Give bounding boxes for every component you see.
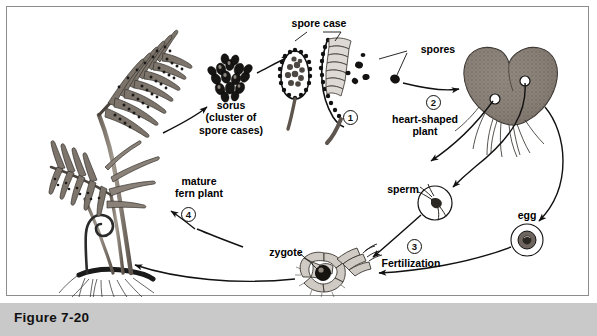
label-mature-fern-plant: mature fern plant (164, 175, 234, 200)
stage-number-3: 3 (407, 239, 422, 254)
egg-art (511, 224, 543, 256)
arrow-tail-to-mature-fern (197, 229, 243, 247)
figure-caption: Figure 7-20 (14, 310, 89, 325)
label-spore-case: spore case (279, 17, 359, 29)
diagram-canvas: sorus (cluster of spore cases) spore cas… (7, 7, 588, 295)
label-zygote: zygote (261, 246, 311, 258)
stage-number-1: 1 (343, 110, 358, 125)
figure-page: sorus (cluster of spore cases) spore cas… (0, 0, 597, 336)
label-heart-shaped-plant: heart-shaped plant (385, 113, 465, 138)
mature-fern-art (49, 30, 192, 297)
arrow-female-to-fern-lower (135, 265, 295, 281)
heart-shaped-plant-art (455, 47, 557, 157)
label-fertilization: Fertilization (369, 257, 453, 269)
frond-left (49, 141, 111, 217)
stage-number-2: 2 (426, 95, 441, 110)
sorus-art (206, 53, 254, 103)
stage-number-4: 4 (181, 207, 196, 222)
arrow-gametophyte-to-egg (539, 107, 563, 221)
figure-caption-bar (0, 303, 597, 336)
diagram-frame: sorus (cluster of spore cases) spore cas… (6, 6, 589, 296)
arrow-spores-to-gametophyte (403, 83, 459, 90)
label-spores: spores (411, 43, 465, 55)
frond-upper (99, 30, 192, 137)
label-sperm: sperm (380, 183, 426, 195)
label-sorus: sorus (cluster of spore cases) (183, 99, 279, 136)
label-egg: egg (510, 209, 544, 221)
leader-spores (379, 51, 407, 75)
